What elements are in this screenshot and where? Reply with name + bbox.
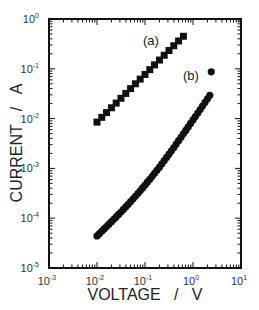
chart: 10-310-210-110010110010-110-210-310-410-… xyxy=(0,0,259,310)
y-tick-label: 10-4 xyxy=(21,211,40,224)
series-label-b: (b) xyxy=(183,68,199,83)
x-axis-title: VOLTAGE / V xyxy=(88,286,203,303)
x-tick-label: 10-3 xyxy=(38,274,57,287)
y-tick-label: 10-5 xyxy=(21,261,40,274)
x-tick-label: 101 xyxy=(231,274,247,287)
plot-border xyxy=(49,19,241,268)
plot-frame xyxy=(49,19,241,268)
series-label-a: (a) xyxy=(143,33,159,48)
axis-ticks xyxy=(49,19,241,268)
data-series xyxy=(93,33,214,240)
series-b xyxy=(93,68,214,239)
data-point-square xyxy=(180,33,187,40)
data-point-circle xyxy=(208,68,215,75)
y-axis-title: CURRENT / A xyxy=(8,83,25,202)
y-tick-label: 100 xyxy=(23,12,39,25)
y-tick-label: 10-1 xyxy=(21,62,40,75)
series-a xyxy=(94,33,187,126)
tick-labels: 10-310-210-110010110010-110-210-310-410-… xyxy=(21,12,248,287)
data-point-circle xyxy=(206,92,213,99)
